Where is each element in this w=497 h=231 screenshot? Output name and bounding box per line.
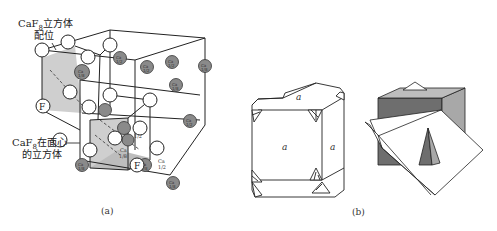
label-text: 的立方体 <box>22 149 62 160</box>
svg-text:1/8: 1/8 <box>78 73 85 78</box>
f-label-bottom: F <box>134 161 140 171</box>
label-coordination-line2: 配位 <box>34 30 54 42</box>
svg-text:1/8: 1/8 <box>169 184 176 189</box>
label-text: CaF <box>18 18 39 29</box>
svg-text:1/8: 1/8 <box>201 67 208 72</box>
label-text: 配位 <box>34 30 54 41</box>
svg-text:1/2: 1/2 <box>143 68 150 73</box>
svg-text:1/8: 1/8 <box>172 86 179 91</box>
svg-text:1/2: 1/2 <box>116 59 123 64</box>
caption-panel-a: (a) <box>101 206 113 216</box>
label-face-centered-line2: 的立方体 <box>22 149 62 161</box>
svg-text:1/2: 1/2 <box>186 122 193 127</box>
figure-canvas: Ca1/8 Ca1/2 Ca1/2 Ca1/2 Ca1/8 Ca1/8 Ca1/… <box>0 0 497 231</box>
svg-text:1/8: 1/8 <box>119 153 127 159</box>
face-label-front: a <box>282 142 287 152</box>
face-label-top: a <box>296 92 301 102</box>
label-text: 在面心 <box>37 137 67 148</box>
label-text: 立方体 <box>43 18 73 29</box>
label-text: CaF <box>12 137 33 148</box>
f-label-top: F <box>39 102 45 112</box>
panel-b-cube-octahedron <box>365 82 483 195</box>
svg-text:1/2: 1/2 <box>168 63 175 68</box>
caption-panel-b: (b) <box>352 207 365 217</box>
face-label-side: a <box>330 142 335 152</box>
svg-text:1/8: 1/8 <box>78 166 85 171</box>
svg-text:1/2: 1/2 <box>158 164 166 170</box>
